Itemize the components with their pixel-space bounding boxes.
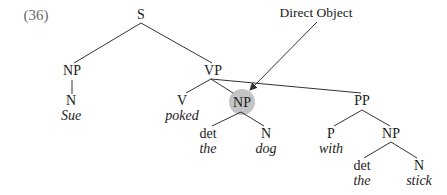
node-pp: PP: [354, 94, 370, 108]
node-s: S: [137, 8, 145, 22]
word-dog: dog: [256, 142, 277, 156]
node-subject-np: NP: [63, 64, 81, 78]
node-object-n: N: [261, 127, 271, 141]
node-pp-np: NP: [382, 127, 400, 141]
word-the-2: the: [353, 174, 370, 188]
word-poked: poked: [165, 109, 198, 123]
word-the-1: the: [199, 142, 216, 156]
node-pp-det: det: [353, 159, 370, 173]
word-stick: stick: [406, 174, 432, 188]
node-object-np: NP: [233, 96, 251, 110]
node-pp-n: N: [414, 159, 424, 173]
node-p: P: [327, 127, 335, 141]
example-number: (36): [24, 8, 49, 22]
node-vp: VP: [204, 64, 222, 78]
node-subject-n: N: [66, 94, 76, 108]
node-v: V: [177, 94, 187, 108]
word-sue: Sue: [61, 109, 81, 123]
word-with: with: [319, 142, 343, 156]
direct-object-annotation: Direct Object: [279, 6, 352, 20]
node-object-det: det: [199, 127, 216, 141]
